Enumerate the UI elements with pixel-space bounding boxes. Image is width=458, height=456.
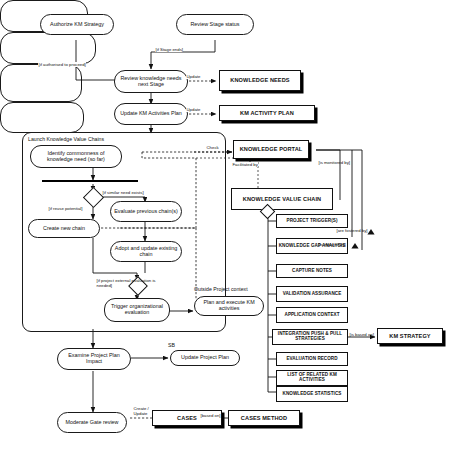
artifact-knowledge-value-chain[interactable]: KNOWLEDGE VALUE CHAIN	[231, 188, 333, 210]
edge-label-check: Check	[206, 145, 219, 150]
kvc-component-application-context[interactable]: APPLICATION CONTEXT	[276, 307, 348, 323]
edge-label-are-fostered-by: [are fostered by]	[336, 228, 368, 233]
activity-examine-project-plan[interactable]: Examine Project Plan Impact	[57, 348, 131, 370]
kvc-component-knowledge-statistics[interactable]: KNOWLEDGE STATISTICS	[276, 386, 348, 402]
activity-moderate-gate-review[interactable]: Moderate Gate review	[57, 412, 127, 433]
activity-update-project-plan[interactable]: Update Project Plan	[170, 350, 240, 366]
activity-review-knowledge-needs[interactable]: Review knowledge needs next Stage	[114, 70, 188, 93]
edge-label-based-on: [based on]	[200, 413, 221, 418]
edge-label-is-initiated-by: [is initiated by]	[318, 242, 346, 247]
edge-label-if-similar-need: [if similar need exists]	[102, 190, 144, 195]
activity-authorize-km-strategy[interactable]: Authorize KM Strategy	[40, 14, 114, 35]
activity-evaluate-previous-chains[interactable]: Evaluate previous chain(s)	[110, 201, 182, 222]
kvc-component-integration-push-pull[interactable]: INTEGRATION PUSH & PULL STRATEGIES	[272, 329, 348, 345]
activity-plan-and-execute[interactable]: Plan and execute KM activities	[194, 296, 264, 316]
kvc-component-validation-assurance[interactable]: VALIDATION ASSURANCE	[276, 286, 348, 302]
edge-label-update-plan: Update	[186, 107, 201, 112]
activity-trigger-org-evaluation[interactable]: Trigger organizational evaluation	[104, 298, 170, 322]
diagram-canvas: Authorize KM Strategy Review Stage statu…	[0, 0, 458, 456]
activity-create-new-chain[interactable]: Create new chain	[28, 219, 100, 238]
synchronization-bar	[42, 180, 138, 182]
activity-identify-commonness[interactable]: Identify commonness of knowledge need (s…	[30, 145, 122, 168]
edge-label-if-reuse-potential: [if reuse potential]	[48, 206, 83, 211]
edge-label-facilitated-by: Facilitated by	[232, 162, 258, 167]
artifact-km-strategy[interactable]: KM STRATEGY	[377, 328, 443, 344]
sb-label: SB	[168, 342, 175, 348]
activity-adopt-and-update[interactable]: Adopt and update existing chain	[110, 241, 182, 262]
activity-review-stage-status[interactable]: Review Stage status	[176, 14, 254, 35]
edge-label-if-stage-ends: [if Stage ends]	[155, 47, 183, 52]
kvc-component-capture-notes[interactable]: CAPTURE NOTES	[276, 264, 348, 278]
artifact-knowledge-portal[interactable]: KNOWLEDGE PORTAL	[233, 140, 309, 159]
edge-label-if-project-external: [if project external evaluation is neede…	[96, 279, 157, 289]
edge-label-is-based-on: [is based on]	[349, 332, 374, 337]
kvc-component-project-triggers[interactable]: PROJECT TRIGGER(S)	[276, 214, 348, 228]
edge-label-if-authorised: [if authorised to proceed]	[38, 62, 86, 67]
artifact-cases-method[interactable]: CASES METHOD	[228, 410, 300, 426]
edge-label-create-update: Create / Update	[133, 407, 164, 416]
artifact-km-activity-plan[interactable]: KM ACTIVITY PLAN	[219, 105, 315, 121]
launch-knowledge-value-chains-label: Launch Knowledge Value Chains	[28, 136, 104, 142]
edge-label-is-monitored-by: [is monitored by]	[318, 160, 351, 165]
activity-update-km-activities-plan[interactable]: Update KM Activities Plan	[114, 103, 188, 125]
kvc-component-list-of-related-km-activities[interactable]: LIST OF RELATED KM ACTIVITIES	[276, 370, 348, 386]
kvc-component-evaluation-record[interactable]: EVALUATION RECORD	[276, 352, 348, 366]
artifact-knowledge-needs[interactable]: KNOWLEDGE NEEDS	[219, 70, 301, 91]
outside-project-context-label: Outside Project context	[194, 286, 248, 292]
edge-label-update-needs: Update	[186, 74, 201, 79]
